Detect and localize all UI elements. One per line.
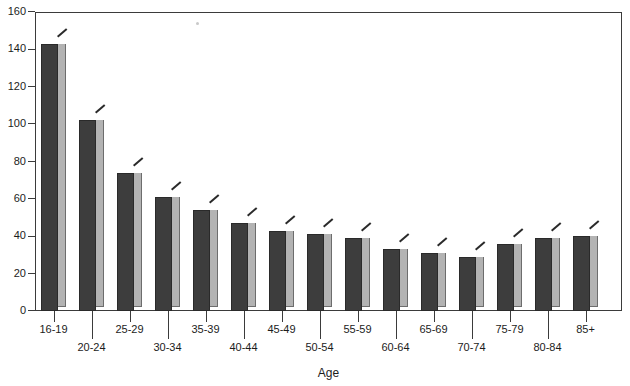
- y-tick-mark: [28, 273, 35, 274]
- bar-front-face: [459, 257, 476, 311]
- x-tick-label-25-29: 25-29: [105, 323, 155, 335]
- x-tick-mark: [472, 311, 473, 339]
- x-tick-label-40-44: 40-44: [219, 341, 269, 353]
- bar-top-face: [210, 202, 218, 210]
- x-tick-label-45-49: 45-49: [257, 323, 307, 335]
- bar-65-69: [421, 245, 447, 311]
- bar-top-face: [438, 245, 446, 253]
- bar-top-face: [96, 112, 104, 120]
- bar-side-face: [590, 232, 598, 307]
- bar-side-face: [514, 240, 522, 307]
- bar-side-face: [438, 249, 446, 307]
- bar-top-face: [248, 215, 256, 223]
- bar-60-64: [383, 241, 409, 311]
- x-tick-label-65-69: 65-69: [409, 323, 459, 335]
- bar-top-face: [514, 236, 522, 244]
- bar-80-84: [535, 230, 561, 311]
- x-tick-mark: [206, 311, 207, 322]
- y-tick-label: 140: [8, 43, 26, 54]
- bar-front-face: [117, 173, 134, 311]
- bar-side-face: [96, 116, 104, 307]
- x-tick-label-80-84: 80-84: [523, 341, 573, 353]
- x-tick-label-16-19: 16-19: [29, 323, 79, 335]
- bar-front-face: [193, 210, 210, 311]
- y-tick-mark: [28, 11, 35, 12]
- y-tick-label: 160: [8, 6, 26, 17]
- x-tick-label-20-24: 20-24: [67, 341, 117, 353]
- y-tick-label: 100: [8, 118, 26, 129]
- bar-front-face: [345, 238, 362, 311]
- bar-top-face: [58, 36, 66, 44]
- bar-top-face: [286, 223, 294, 231]
- x-tick-label-85+: 85+: [561, 323, 611, 335]
- x-tick-mark: [54, 311, 55, 322]
- x-axis: Age 16-1920-2425-2930-3435-3940-4445-495…: [35, 311, 622, 386]
- bar-50-54: [307, 226, 333, 311]
- bar-side-face: [362, 234, 370, 307]
- x-tick-label-75-79: 75-79: [485, 323, 535, 335]
- bar-side-face: [58, 40, 66, 307]
- bar-side-face: [400, 245, 408, 307]
- bar-top-face: [324, 226, 332, 234]
- x-tick-label-35-39: 35-39: [181, 323, 231, 335]
- bar-35-39: [193, 202, 219, 311]
- y-tick-label: 40: [14, 230, 26, 241]
- bar-top-face: [476, 249, 484, 257]
- x-tick-mark: [244, 311, 245, 339]
- bar-front-face: [269, 231, 286, 311]
- bar-front-face: [41, 44, 58, 311]
- bar-55-59: [345, 230, 371, 311]
- x-tick-mark: [282, 311, 283, 322]
- bar-front-face: [535, 238, 552, 311]
- bar-side-face: [286, 227, 294, 307]
- bar-chart: 020406080100120140160 Age 16-1920-2425-2…: [0, 0, 630, 386]
- y-tick-label: 20: [14, 268, 26, 279]
- bar-30-34: [155, 189, 181, 311]
- y-tick-mark: [28, 161, 35, 162]
- bar-top-face: [362, 230, 370, 238]
- y-tick-mark: [28, 236, 35, 237]
- bar-top-face: [552, 230, 560, 238]
- bar-top-face: [134, 165, 142, 173]
- bar-top-face: [590, 228, 598, 236]
- bar-front-face: [421, 253, 438, 311]
- bar-front-face: [155, 197, 172, 311]
- bar-40-44: [231, 215, 257, 311]
- y-tick-label: 120: [8, 81, 26, 92]
- bars-layer: [35, 12, 622, 311]
- bar-16-19: [41, 36, 67, 311]
- x-tick-mark: [358, 311, 359, 322]
- bar-side-face: [248, 219, 256, 307]
- x-tick-mark: [510, 311, 511, 322]
- y-tick-label: 0: [20, 305, 26, 316]
- bar-side-face: [172, 193, 180, 307]
- bar-front-face: [307, 234, 324, 311]
- bar-side-face: [476, 253, 484, 307]
- x-tick-label-70-74: 70-74: [447, 341, 497, 353]
- bar-25-29: [117, 165, 143, 311]
- bar-side-face: [324, 230, 332, 307]
- x-tick-mark: [92, 311, 93, 339]
- x-tick-label-55-59: 55-59: [333, 323, 383, 335]
- y-tick-mark: [28, 123, 35, 124]
- bar-front-face: [79, 120, 96, 311]
- bar-20-24: [79, 112, 105, 311]
- y-tick-mark: [28, 310, 35, 311]
- x-tick-label-60-64: 60-64: [371, 341, 421, 353]
- x-tick-mark: [548, 311, 549, 339]
- bar-top-face: [400, 241, 408, 249]
- bar-85+: [573, 228, 599, 311]
- y-tick-label: 80: [14, 156, 26, 167]
- x-tick-mark: [396, 311, 397, 339]
- bar-45-49: [269, 223, 295, 311]
- y-tick-mark: [28, 86, 35, 87]
- x-tick-mark: [586, 311, 587, 322]
- bar-front-face: [383, 249, 400, 311]
- bar-side-face: [134, 169, 142, 307]
- bar-75-79: [497, 236, 523, 311]
- x-tick-label-50-54: 50-54: [295, 341, 345, 353]
- bar-top-face: [172, 189, 180, 197]
- bar-front-face: [573, 236, 590, 311]
- bar-front-face: [497, 244, 514, 311]
- y-tick-mark: [28, 198, 35, 199]
